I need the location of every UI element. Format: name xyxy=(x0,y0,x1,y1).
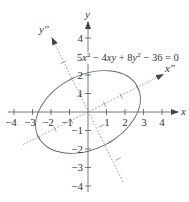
x-tick-label: 4 xyxy=(159,116,165,128)
y-tick-label: 2 xyxy=(78,69,84,81)
x-tick-label: −2 xyxy=(42,116,54,128)
x-tick-label: −4 xyxy=(5,116,17,128)
y-tick-label: −2 xyxy=(71,143,83,155)
y-tick-label: 1 xyxy=(78,87,84,99)
x-axis-label: x xyxy=(180,105,186,117)
y-tick-label: −3 xyxy=(71,161,83,173)
y-rotated-axis-label: y'' xyxy=(38,23,49,35)
x-tick-labels: −4 −3 −2 −1 1 2 3 4 xyxy=(5,116,165,128)
y-tick-label: −4 xyxy=(71,180,83,192)
equation-label: 5x2 − 4xy + 8y2 − 36 = 0 xyxy=(77,51,179,63)
x-rotated-axis xyxy=(23,75,163,145)
x-tick-label: 2 xyxy=(122,116,128,128)
y-tick-label: −1 xyxy=(71,124,83,136)
rotated-ellipse-diagram: x y x'' y'' −4 −3 −2 −1 1 2 3 4 1 2 3 4 … xyxy=(0,0,189,202)
diagram-canvas: x y x'' y'' −4 −3 −2 −1 1 2 3 4 1 2 3 4 … xyxy=(0,0,189,202)
y-tick-label: 4 xyxy=(78,32,84,44)
x-tick-label: 1 xyxy=(104,116,110,128)
x-tick-label: −3 xyxy=(24,116,36,128)
x-tick-label: 3 xyxy=(141,116,147,128)
y-axis-label: y xyxy=(84,8,90,20)
